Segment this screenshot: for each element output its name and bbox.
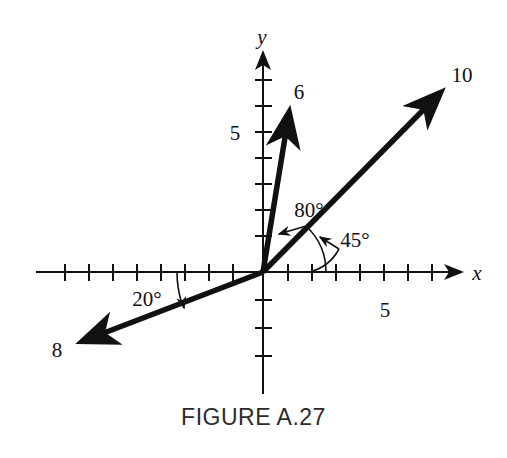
x-axis: x 5	[36, 261, 482, 322]
y-axis: y 5	[230, 25, 272, 394]
vector-6-label: 6	[294, 80, 305, 104]
vector-8-label: 8	[52, 338, 63, 362]
vector-8: 8	[52, 272, 263, 362]
vector-10-label: 10	[452, 63, 473, 87]
angle-45-pointer	[320, 237, 339, 249]
angle-20-pointer-curve	[177, 272, 182, 304]
y-axis-label: y	[255, 25, 267, 49]
y-axis-tick-label-5: 5	[230, 121, 241, 145]
figure-caption: FIGURE A.27	[0, 404, 507, 431]
x-axis-tick-label-5: 5	[380, 298, 391, 322]
figure-container: x 5 y 5 6	[0, 0, 507, 458]
angle-80-label: 80°	[294, 198, 323, 222]
angle-45-label: 45°	[340, 228, 369, 252]
vector-6: 6	[263, 80, 304, 272]
angle-20-label: 20°	[132, 287, 161, 311]
angle-80-arc	[306, 226, 326, 272]
vector-diagram: x 5 y 5 6	[0, 0, 507, 458]
x-axis-label: x	[471, 261, 482, 285]
vector-8-line	[83, 272, 263, 341]
